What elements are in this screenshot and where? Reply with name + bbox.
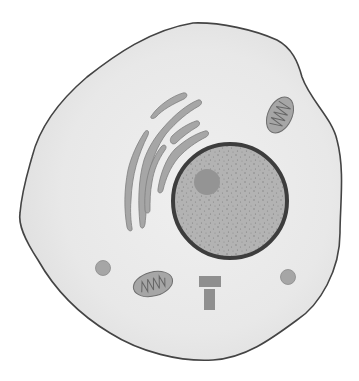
cell-illustration bbox=[0, 0, 359, 381]
lysosome bbox=[281, 270, 296, 285]
nucleus bbox=[173, 144, 287, 258]
cell-diagram: Animal cell bbox=[0, 0, 359, 381]
lysosome bbox=[96, 261, 111, 276]
nucleolus bbox=[194, 169, 220, 195]
